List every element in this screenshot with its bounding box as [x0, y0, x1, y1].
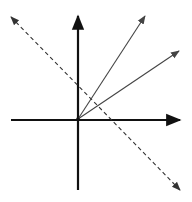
vector-diagram: [0, 0, 192, 202]
origin-point: [76, 117, 80, 121]
dashed-line: [11, 17, 180, 190]
vector-steep: [78, 16, 145, 119]
vector-shallow: [78, 51, 179, 119]
